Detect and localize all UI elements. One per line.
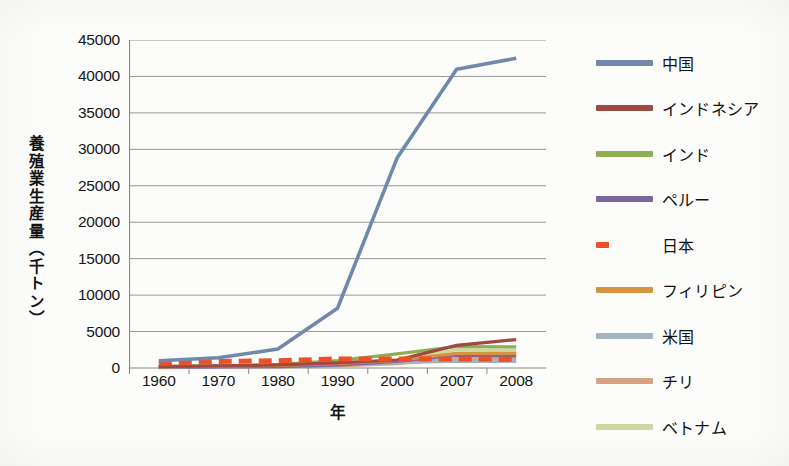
x-tick-label: 1990 (321, 372, 355, 390)
legend-label: チリ (662, 369, 694, 393)
legend-dashed-line (596, 242, 653, 248)
legend-item[interactable]: ベトナム (596, 404, 782, 450)
legend-item[interactable]: フィリピン (596, 268, 782, 314)
legend-item[interactable]: インド (596, 131, 782, 177)
x-tick-label: 2000 (380, 372, 414, 390)
legend-color-swatch (596, 242, 653, 248)
y-tick-label: 5000 (86, 323, 120, 341)
legend-color-swatch (596, 196, 653, 202)
y-tick-label: 35000 (78, 104, 120, 122)
x-tick-label: 2008 (499, 372, 533, 390)
legend-label: フィリピン (662, 278, 743, 302)
legend-item[interactable]: 日本 (596, 222, 782, 268)
legend-color-swatch (596, 151, 653, 157)
x-tick-label: 1960 (142, 372, 176, 390)
y-tick-label: 15000 (78, 250, 120, 268)
chart-page: 養殖業生産量（千トン） 0500010000150002000025000300… (0, 0, 789, 466)
y-tick-label: 0 (112, 359, 120, 377)
legend-item[interactable]: 中国 (596, 40, 782, 86)
legend-label: 中国 (662, 51, 694, 75)
y-axis-tick-labels: 0500010000150002000025000300003500040000… (52, 30, 124, 378)
legend-label: 日本 (662, 233, 694, 257)
x-axis-title: 年 (129, 400, 546, 422)
legend-label: ベトナム (662, 415, 727, 439)
legend-label: ペルー (662, 187, 711, 211)
legend-color-swatch (596, 333, 653, 339)
y-axis-title: 養殖業生産量（千トン） (18, 86, 52, 376)
x-tick-label: 2007 (440, 372, 474, 390)
legend-color-swatch (596, 424, 653, 430)
chart-svg (129, 40, 546, 376)
legend-item[interactable]: ペルー (596, 177, 782, 223)
y-tick-label: 40000 (78, 67, 120, 85)
legend-color-swatch (596, 378, 653, 384)
x-axis-tick-labels: 1960197019801990200020072008 (129, 372, 546, 398)
chart-legend: 中国インドネシアインドペルー日本フィリピン米国チリベトナム (596, 40, 782, 450)
y-tick-label: 45000 (78, 31, 120, 49)
x-tick-label: 1980 (261, 372, 295, 390)
legend-label: 米国 (662, 324, 694, 348)
series-line (159, 58, 516, 360)
y-tick-label: 30000 (78, 140, 120, 158)
y-tick-label: 10000 (78, 286, 120, 304)
legend-item[interactable]: チリ (596, 359, 782, 405)
legend-label: インド (662, 142, 711, 166)
y-tick-label: 25000 (78, 177, 120, 195)
legend-item[interactable]: インドネシア (596, 86, 782, 132)
plot-area (129, 40, 546, 368)
y-tick-label: 20000 (78, 213, 120, 231)
x-tick-label: 1970 (202, 372, 236, 390)
legend-color-swatch (596, 60, 653, 66)
legend-label: インドネシア (662, 96, 759, 120)
legend-color-swatch (596, 105, 653, 111)
legend-item[interactable]: 米国 (596, 313, 782, 359)
legend-color-swatch (596, 287, 653, 293)
